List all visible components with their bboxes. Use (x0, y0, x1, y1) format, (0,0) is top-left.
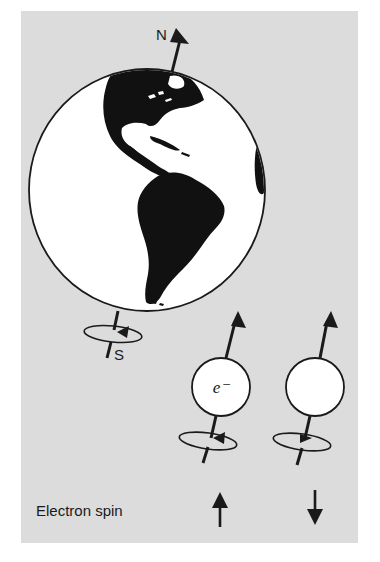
south-label: S (114, 346, 124, 363)
electron2-sphere (286, 358, 344, 416)
electron-spin-diagram: N (0, 0, 380, 562)
electron-spin-caption: Electron spin (36, 502, 123, 519)
north-label: N (156, 26, 167, 43)
electron-label: e⁻ (213, 378, 232, 397)
